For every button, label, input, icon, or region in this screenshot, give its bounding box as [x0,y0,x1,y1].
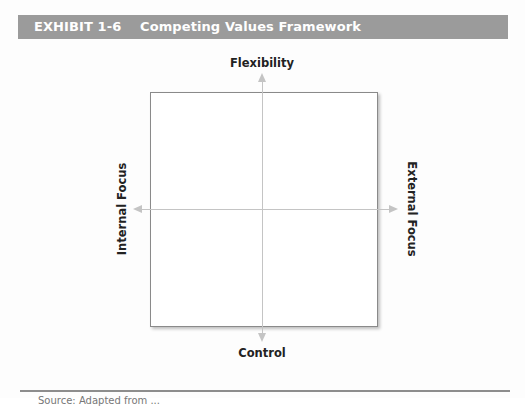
axis-label-internal-focus: Internal Focus [115,163,129,255]
footer-divider [20,390,510,392]
arrow-down-icon [258,333,266,342]
arrow-right-icon [389,205,398,213]
axis-label-external-focus: External Focus [405,161,419,256]
axis-label-flexibility: Flexibility [230,56,294,70]
vertical-axis-line [262,78,263,336]
horizontal-axis-line [140,209,390,210]
axis-label-control: Control [238,346,286,360]
arrow-left-icon [133,205,142,213]
source-caption: Source: Adapted from ... [38,395,160,407]
arrow-up-icon [258,73,266,82]
